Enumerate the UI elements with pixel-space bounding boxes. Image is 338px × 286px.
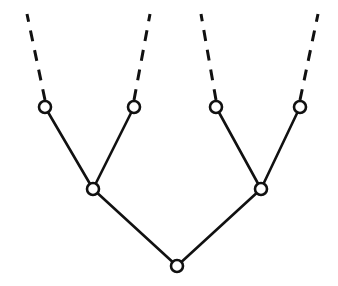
- tree-node-leaf-1[interactable]: [39, 101, 51, 113]
- tree-node-left-internal[interactable]: [87, 183, 99, 195]
- tree-node-leaf-3[interactable]: [210, 101, 222, 113]
- branch-root-to-left-internal: [93, 189, 177, 266]
- branch-left-internal-to-leaf-1: [45, 107, 93, 189]
- branch-root-to-right-internal: [177, 189, 261, 266]
- dashed-branch-leaf-1: [27, 14, 45, 100]
- tree-svg-canvas: [0, 0, 338, 286]
- dashed-branch-leaf-3: [201, 14, 216, 100]
- branch-right-internal-to-leaf-3: [216, 107, 261, 189]
- tree-diagram: [0, 0, 338, 286]
- tree-node-leaf-4[interactable]: [294, 101, 306, 113]
- dashed-branch-leaf-4: [300, 14, 318, 100]
- tree-node-leaf-2[interactable]: [128, 101, 140, 113]
- tree-node-root[interactable]: [171, 260, 183, 272]
- dashed-branch-leaf-2: [134, 14, 150, 100]
- branch-left-internal-to-leaf-2: [93, 107, 134, 189]
- tree-node-right-internal[interactable]: [255, 183, 267, 195]
- nodes-group: [39, 101, 306, 272]
- branch-right-internal-to-leaf-4: [261, 107, 300, 189]
- dashed-edges-group: [27, 14, 318, 100]
